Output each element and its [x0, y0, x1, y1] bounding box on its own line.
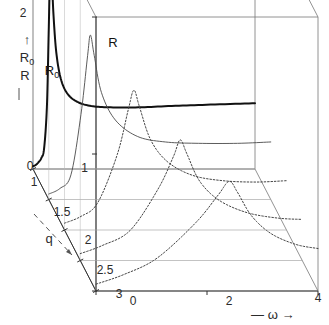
x-tick-2: 2 — [226, 294, 233, 308]
q-tick-3: 3 — [116, 287, 123, 301]
q-tick-1: 1 — [31, 175, 38, 189]
x-tick-4: 4 — [315, 291, 322, 305]
q-tick-2-5: 2.5 — [97, 263, 114, 277]
q-tick-2: 2 — [85, 233, 92, 247]
y-axis-label-denominator: R — [20, 68, 29, 83]
x-tick-0: 0 — [130, 294, 137, 308]
q-axis-label: q — [45, 231, 52, 246]
box-edge-9 — [255, 0, 318, 17]
y-axis-arrow-icon: ↑ — [24, 32, 31, 47]
curve-series-5 — [96, 181, 318, 284]
q-tick-1-5: 1.5 — [54, 205, 71, 219]
x-axis-label: — ω → — [251, 307, 294, 322]
tick-marks — [30, 17, 318, 295]
curve-series-3 — [65, 90, 287, 223]
curve-label-R: R — [108, 35, 117, 50]
axes-box — [33, 0, 318, 291]
y-axis-label-numerator: R0 — [20, 50, 34, 67]
y-tick-0: 0 — [27, 159, 34, 173]
slice-planes — [33, 0, 318, 291]
curves — [33, 0, 318, 284]
curve-series-0 — [33, 0, 255, 166]
y-tick-2: 2 — [20, 6, 27, 20]
curve-label-R0: R0 — [45, 63, 59, 80]
plot-svg: 2 1 0 ↑ R0 R 0 2 4 — ω → 1 1.5 2 2.5 3 q… — [0, 0, 329, 325]
y-tick-1: 1 — [81, 161, 88, 175]
resonance-waterfall-figure: 2 1 0 ↑ R0 R 0 2 4 — ω → 1 1.5 2 2.5 3 q… — [0, 0, 329, 325]
